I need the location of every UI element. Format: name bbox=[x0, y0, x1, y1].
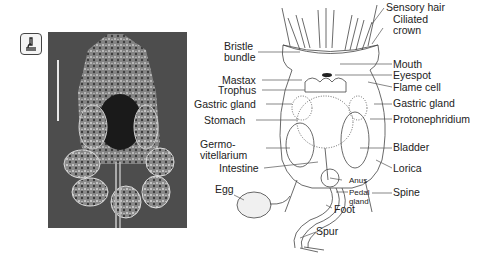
label-lorica: Lorica bbox=[393, 163, 422, 174]
label-spine: Spine bbox=[393, 187, 420, 198]
label-anus: Anus bbox=[349, 176, 367, 185]
label-bristle-bundle: Bristlebundle bbox=[224, 41, 256, 63]
label-foot: Foot bbox=[334, 204, 355, 215]
label-egg: Egg bbox=[215, 184, 234, 195]
label-stomach: Stomach bbox=[204, 115, 245, 126]
label-gastric-gland-right: Gastric gland bbox=[393, 98, 455, 109]
label-bladder: Bladder bbox=[393, 142, 429, 153]
label-ciliated-crown: Ciliatedcrown bbox=[393, 14, 428, 36]
label-gastric-gland-left: Gastric gland bbox=[194, 99, 256, 110]
label-intestine: Intestine bbox=[219, 163, 259, 174]
label-sensory-hair: Sensory hair bbox=[386, 2, 445, 13]
label-spur: Spur bbox=[316, 226, 338, 237]
label-germovitellarium: Germo-vitellarium bbox=[200, 139, 247, 161]
label-flame-cell: Flame cell bbox=[393, 82, 441, 93]
label-eyespot: Eyespot bbox=[393, 70, 431, 81]
label-protonephridium: Protonephridium bbox=[393, 114, 470, 125]
label-trophus: Trophus bbox=[218, 85, 256, 96]
